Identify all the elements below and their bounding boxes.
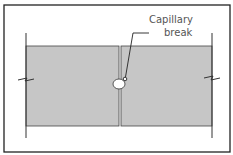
callout-label-line2: break: [164, 27, 192, 38]
capillary-break-diagram: [0, 0, 233, 155]
leader-dot-icon: [123, 77, 127, 81]
capillary-break-gap: [113, 79, 125, 89]
callout-label-line1: Capillary: [149, 14, 193, 25]
left-panel: [26, 46, 119, 126]
right-panel: [121, 46, 212, 126]
